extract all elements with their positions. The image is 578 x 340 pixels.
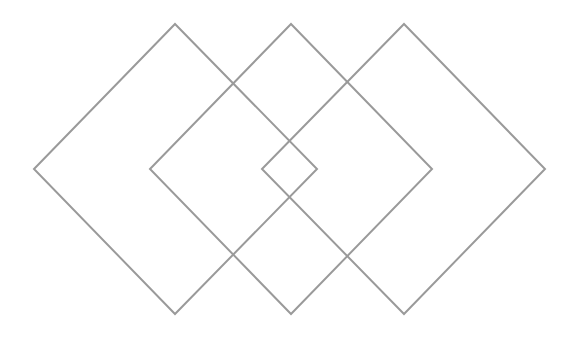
diagram-canvas (0, 0, 578, 340)
left-diamond (34, 24, 317, 314)
diamonds-diagram (0, 0, 578, 340)
middle-diamond (150, 24, 432, 314)
right-diamond (262, 24, 545, 314)
